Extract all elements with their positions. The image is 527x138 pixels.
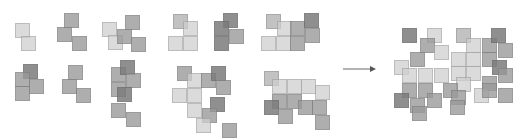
- arrow-right-icon: [0, 0, 527, 138]
